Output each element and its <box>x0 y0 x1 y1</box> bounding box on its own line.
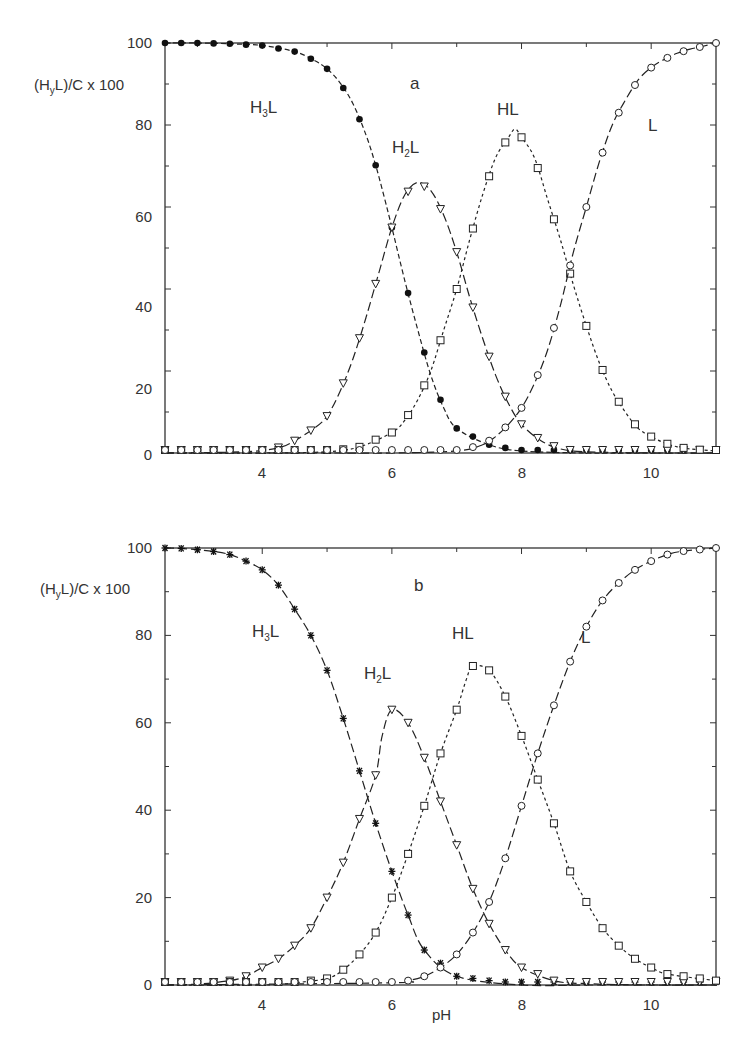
marker-open-circle <box>615 579 622 586</box>
y-tick-20: 20 <box>112 889 152 906</box>
marker-open-square <box>664 971 671 978</box>
marker-open-circle <box>275 447 282 454</box>
marker-open-square <box>502 139 509 146</box>
marker-open-circle <box>340 447 347 454</box>
marker-open-square <box>453 706 460 713</box>
x-tick-8: 8 <box>502 464 542 481</box>
marker-filled-circle <box>534 447 541 454</box>
y-tick-100: 100 <box>112 34 152 51</box>
marker-asterisk <box>162 545 169 552</box>
marker-open-triangle <box>518 964 526 972</box>
series-l <box>162 40 720 454</box>
marker-open-circle <box>162 447 169 454</box>
marker-open-triangle <box>307 427 315 435</box>
series-h2l <box>161 706 720 986</box>
marker-open-circle <box>178 447 185 454</box>
marker-open-circle <box>259 447 266 454</box>
marker-open-circle <box>437 447 444 454</box>
marker-filled-circle <box>259 42 266 49</box>
marker-open-circle <box>324 447 331 454</box>
species-label-l-b: L <box>581 628 590 648</box>
y-tick-60: 60 <box>112 208 152 225</box>
y-tick-20: 20 <box>112 380 152 397</box>
marker-open-circle <box>356 979 363 986</box>
marker-open-square <box>518 134 525 141</box>
marker-open-circle <box>550 702 557 709</box>
marker-open-triangle <box>501 393 509 401</box>
marker-open-square <box>567 868 574 875</box>
marker-open-circle <box>437 964 444 971</box>
marker-asterisk <box>259 566 266 573</box>
marker-open-circle <box>648 64 655 71</box>
marker-open-circle <box>388 447 395 454</box>
y-axis-label-b: (HyL)/C x 100 <box>40 580 130 600</box>
marker-asterisk <box>210 548 217 555</box>
x-tick-8: 8 <box>502 996 542 1013</box>
marker-open-circle <box>680 548 687 555</box>
marker-open-circle <box>583 204 590 211</box>
marker-open-circle <box>388 979 395 986</box>
x-tick-4: 4 <box>242 464 282 481</box>
marker-open-circle <box>421 973 428 980</box>
marker-open-triangle <box>355 335 363 343</box>
species-label-h2l-a: H2L <box>392 138 419 159</box>
series-hl <box>162 129 720 453</box>
marker-open-triangle <box>291 437 299 445</box>
marker-open-circle <box>664 54 671 61</box>
marker-open-square <box>534 776 541 783</box>
marker-open-square <box>469 225 476 232</box>
marker-open-triangle <box>518 421 526 429</box>
marker-open-triangle <box>469 304 477 312</box>
marker-open-circle <box>567 658 574 665</box>
marker-filled-circle <box>210 40 217 47</box>
marker-open-square <box>421 802 428 809</box>
marker-asterisk <box>453 973 460 980</box>
y-tick-0: 0 <box>112 976 152 993</box>
marker-open-circle <box>534 750 541 757</box>
marker-open-circle <box>550 324 557 331</box>
marker-open-triangle <box>404 719 412 727</box>
marker-open-square <box>648 433 655 440</box>
marker-filled-circle <box>291 48 298 55</box>
marker-open-circle <box>178 979 185 986</box>
marker-open-triangle <box>372 772 380 780</box>
marker-open-circle <box>453 447 460 454</box>
series-h3l <box>162 40 720 454</box>
marker-filled-circle <box>453 425 460 432</box>
plot-frame <box>165 548 716 985</box>
marker-open-square <box>405 850 412 857</box>
marker-open-circle <box>696 43 703 50</box>
panel-tag-a: a <box>410 74 419 94</box>
marker-asterisk <box>372 820 379 827</box>
series-hl <box>162 662 720 985</box>
marker-open-circle <box>713 40 720 47</box>
marker-open-square <box>648 964 655 971</box>
marker-open-square <box>713 977 720 984</box>
marker-open-circle <box>453 951 460 958</box>
marker-filled-circle <box>340 85 347 92</box>
y-tick-40: 40 <box>112 298 152 315</box>
marker-open-triangle <box>372 280 380 288</box>
marker-open-circle <box>567 262 574 269</box>
marker-asterisk <box>178 545 185 552</box>
marker-asterisk <box>275 582 282 589</box>
marker-open-square <box>599 366 606 373</box>
marker-open-triangle <box>453 842 461 850</box>
y-tick-60: 60 <box>112 714 152 731</box>
marker-open-triangle <box>339 380 347 388</box>
marker-open-circle <box>162 979 169 986</box>
marker-open-circle <box>259 979 266 986</box>
marker-open-circle <box>486 437 493 444</box>
marker-open-triangle <box>420 754 428 762</box>
y-tick-100: 100 <box>112 539 152 556</box>
marker-open-circle <box>194 447 201 454</box>
marker-open-circle <box>599 597 606 604</box>
marker-open-triangle <box>485 353 493 361</box>
marker-open-triangle <box>274 955 282 963</box>
marker-open-circle <box>372 979 379 986</box>
marker-open-circle <box>194 979 201 986</box>
marker-asterisk <box>502 979 509 986</box>
marker-open-square <box>518 732 525 739</box>
y-axis-label-a: (HyL)/C x 100 <box>34 76 124 96</box>
marker-open-triangle <box>453 249 461 257</box>
